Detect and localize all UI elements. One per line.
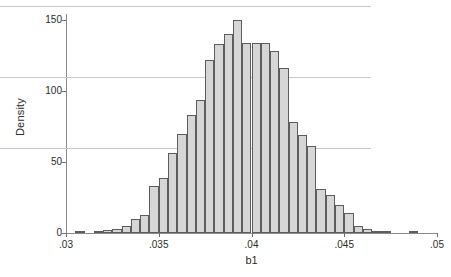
y-axis-title: Density [0, 0, 40, 233]
x-tick-label: .04 [232, 239, 272, 250]
histogram-bar [298, 135, 307, 233]
gridline [0, 6, 371, 7]
x-tick-mark [252, 233, 253, 237]
y-axis-title-text: Density [14, 97, 26, 135]
histogram-bar [307, 146, 316, 233]
histogram-bar [159, 178, 168, 233]
y-tick-label-text: 100 [36, 86, 62, 96]
histogram-bar [242, 43, 251, 233]
histogram-bar [363, 229, 372, 233]
histogram-bar [233, 20, 242, 233]
histogram-bar [289, 122, 298, 233]
histogram-bars [66, 14, 437, 233]
x-tick-mark [437, 233, 438, 237]
x-axis-title: b1 [66, 254, 437, 266]
histogram-bar [252, 43, 261, 233]
histogram-bar [122, 226, 131, 233]
y-tick-label: 50 [30, 157, 62, 167]
y-tick-label: 150 [30, 15, 62, 25]
histogram-bar [335, 205, 344, 233]
y-tick-label: 100 [30, 86, 62, 96]
histogram-bar [214, 44, 223, 233]
x-tick-label: .05 [417, 239, 451, 250]
histogram-bar [344, 213, 353, 233]
histogram-bar [168, 153, 177, 233]
histogram-bar [131, 219, 140, 233]
histogram-bar [94, 231, 103, 233]
histogram-bar [261, 43, 270, 233]
histogram-bar [177, 134, 186, 233]
histogram-bar [75, 231, 84, 233]
x-tick-mark [344, 233, 345, 237]
x-tick-label: .045 [324, 239, 364, 250]
histogram-bar [187, 115, 196, 233]
histogram-bar [149, 186, 158, 233]
y-tick-label-text: 150 [36, 15, 62, 25]
histogram-bar [140, 215, 149, 233]
histogram-bar [279, 68, 288, 233]
x-axis-title-text: b1 [245, 254, 257, 266]
histogram-bar [196, 100, 205, 233]
histogram-bar [316, 189, 325, 233]
histogram-bar [409, 231, 418, 233]
histogram-figure: Density 050100150 .03.035.04.045.05 b1 [0, 0, 451, 277]
histogram-bar [354, 226, 363, 233]
y-tick-label-text: 50 [36, 157, 62, 167]
histogram-bar [326, 195, 335, 233]
histogram-bar [205, 60, 214, 233]
x-tick-label: .03 [46, 239, 86, 250]
x-tick-mark [66, 233, 67, 237]
histogram-bar [112, 229, 121, 233]
histogram-bar [224, 34, 233, 233]
y-tick-label: 0 [30, 228, 62, 238]
x-tick-label: .035 [139, 239, 179, 250]
x-tick-mark [159, 233, 160, 237]
y-tick-label-text: 0 [36, 228, 62, 238]
histogram-bar [103, 230, 112, 233]
histogram-bar [381, 231, 390, 233]
histogram-bar [372, 231, 381, 233]
histogram-bar [270, 51, 279, 233]
